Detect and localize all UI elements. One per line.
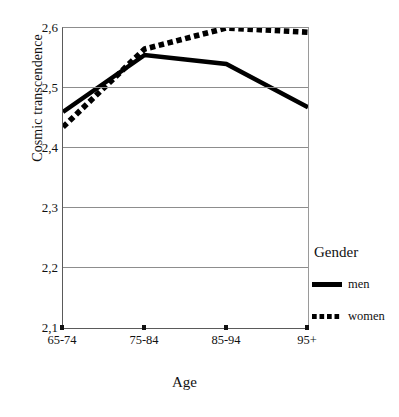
x-tick-mark: [305, 325, 309, 330]
x-tick-label: 75-84: [104, 333, 184, 347]
legend: Gender men women: [312, 243, 399, 337]
legend-swatch-dotted-line-icon: [312, 314, 342, 319]
x-tick-label: 65-74: [22, 333, 102, 347]
plot-area: [62, 27, 309, 329]
legend-title: Gender: [312, 243, 399, 261]
legend-label-women: women: [348, 309, 385, 324]
y-tick-label: 2,3: [14, 201, 58, 214]
series-line-women: [63, 28, 308, 127]
x-tick-mark: [60, 325, 64, 330]
y-tick-label: 2,5: [14, 81, 58, 94]
legend-item-men: men: [312, 273, 399, 295]
chart-figure: Cosmic transcendence 2,6 2,5 2,4 2,3 2,2…: [0, 0, 399, 417]
y-axis-tick-labels: 2,6 2,5 2,4 2,3 2,2 2,1: [10, 0, 58, 417]
gridline: [63, 267, 308, 268]
x-tick-label: 85-94: [186, 333, 266, 347]
legend-swatch-solid-line-icon: [312, 282, 342, 287]
gridline: [63, 207, 308, 208]
legend-label-men: men: [348, 277, 370, 292]
series-lines: [63, 28, 308, 328]
gridline: [63, 147, 308, 148]
series-line-men: [63, 55, 308, 112]
y-tick-label: 2,2: [14, 261, 58, 274]
x-axis-title: Age: [62, 374, 307, 391]
y-tick-label: 2,4: [14, 141, 58, 154]
y-tick-label: 2,6: [14, 21, 58, 34]
x-tick-mark: [224, 325, 228, 330]
x-tick-mark: [142, 325, 146, 330]
legend-item-women: women: [312, 305, 399, 327]
gridline: [63, 87, 308, 88]
cropped-caption-strip: [0, 409, 399, 417]
